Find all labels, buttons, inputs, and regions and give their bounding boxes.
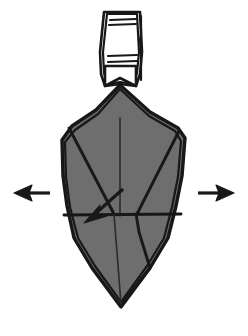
origami-diagram-root (0, 0, 248, 336)
strip-right-edge-crease-line (140, 16, 141, 80)
horizontal-mid-crease-line (64, 214, 181, 215)
strip-rule-lower-1-line (108, 55, 137, 56)
strip-rule-upper-2-line (109, 24, 136, 25)
white-paper-strip-group (100, 12, 142, 86)
strip-rule-upper-1-line (110, 19, 136, 20)
strip-rule-lower-2-line (108, 61, 137, 62)
origami-diagram-canvas (0, 0, 248, 336)
